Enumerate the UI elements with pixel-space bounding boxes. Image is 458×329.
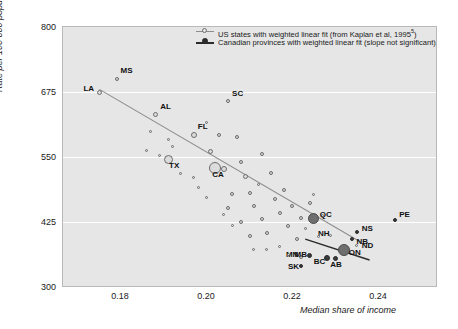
- data-point: [295, 237, 299, 241]
- gridline-425: [63, 222, 436, 223]
- data-point: [248, 234, 252, 238]
- data-point: [308, 201, 312, 205]
- legend-item-canadian-provinces: Canadian provinces with weighted linear …: [196, 37, 436, 48]
- data-point: [282, 188, 286, 192]
- legend: US states with weighted linear fit (from…: [196, 26, 436, 48]
- data-point: [273, 197, 277, 201]
- legend-item-us-states: US states with weighted linear fit (from…: [196, 26, 436, 37]
- data-point: [171, 145, 174, 148]
- legend-label-canada: Canadian provinces with weighted linear …: [218, 38, 436, 47]
- point-label-sk: SK: [288, 262, 299, 271]
- data-point: [239, 220, 243, 224]
- data-point-fl: [191, 132, 197, 138]
- point-label-pe: PE: [399, 210, 410, 219]
- point-label-ms: MS: [121, 66, 133, 75]
- xtick-020: 0.20: [186, 291, 226, 301]
- ytick-550: 550: [18, 152, 56, 162]
- point-label-ab: AB: [330, 260, 342, 269]
- data-point: [269, 171, 273, 175]
- point-label-mb: MB: [295, 250, 307, 259]
- filled-circle-icon: [202, 38, 208, 44]
- point-label-on: ON: [349, 248, 361, 257]
- point-label-nh: NH: [318, 229, 330, 238]
- data-point-al: [153, 112, 158, 117]
- data-point: [235, 135, 239, 139]
- point-label-sc: SC: [232, 89, 243, 98]
- data-point-la: [97, 90, 102, 95]
- data-point: [278, 245, 281, 248]
- point-label-tx: TX: [169, 161, 179, 170]
- data-point-ms: [115, 77, 119, 81]
- point-label-ns: NS: [362, 224, 373, 233]
- point-label-bc: BC: [314, 257, 326, 266]
- data-point: [243, 174, 248, 179]
- open-circle-icon: [202, 28, 207, 33]
- data-point: [197, 186, 200, 189]
- data-point: [205, 121, 208, 124]
- point-label-al: AL: [160, 102, 171, 111]
- point-label-qc: QC: [320, 210, 332, 219]
- data-point: [158, 154, 161, 157]
- data-point: [248, 191, 252, 195]
- point-label-nb: NB: [356, 237, 368, 246]
- data-point: [231, 224, 234, 227]
- data-point: [265, 231, 269, 235]
- xtick-024: 0.24: [358, 291, 398, 301]
- x-axis-label: Median share of income: [300, 305, 396, 315]
- data-point: [278, 211, 282, 215]
- xtick-018: 0.18: [100, 291, 140, 301]
- data-point: [317, 235, 320, 238]
- xtick-022: 0.22: [272, 291, 312, 301]
- gridline-550: [63, 157, 436, 158]
- data-point: [286, 224, 290, 228]
- gridline-675: [63, 92, 436, 93]
- data-point: [226, 206, 230, 210]
- ytick-675: 675: [18, 87, 56, 97]
- ytick-800: 800: [18, 22, 56, 32]
- y-axis-label: Rate per 100 000 population: [0, 0, 4, 92]
- data-point: [287, 253, 290, 256]
- data-point: [257, 183, 260, 186]
- scatter-plot-figure: 800 675 550 425 300 0.18 0.20 0.22 0.24 …: [0, 0, 458, 329]
- point-label-la: LA: [83, 84, 94, 93]
- ytick-425: 425: [18, 217, 56, 227]
- ytick-300: 300: [18, 282, 56, 292]
- data-point: [167, 138, 170, 141]
